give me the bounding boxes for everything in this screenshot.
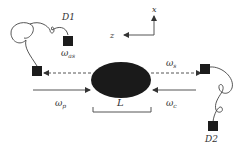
detector-d1 [63,36,73,46]
length-bracket: L [93,97,151,112]
optical-fiber-left [11,23,68,66]
optical-fiber-right [210,67,232,122]
omega-s-label: ωs [166,58,176,69]
omega-p-label: ωp [55,98,66,110]
x-axis-label: x [152,5,157,14]
atomic-medium-ellipse [91,62,151,98]
z-axis-label: z [109,31,115,40]
coordinate-axes: z x [109,5,157,40]
diagram-canvas: z x L ωas ωs ωp ωc D1 D2 [0,0,248,147]
detector-d2-label: D2 [204,134,218,144]
detector-d1-label: D1 [61,12,75,22]
fiber-coupler-left [32,66,42,76]
fiber-coupler-right [200,64,210,74]
omega-as-label: ωas [61,48,75,59]
length-label: L [116,97,124,108]
omega-c-label: ωc [166,98,177,109]
detector-d2 [208,121,218,131]
